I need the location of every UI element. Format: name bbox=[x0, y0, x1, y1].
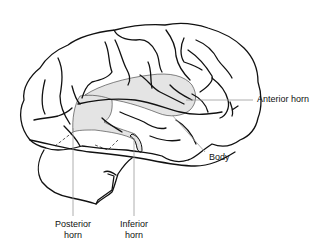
sulcus bbox=[230, 102, 238, 116]
sulcus bbox=[115, 40, 130, 85]
sulcus bbox=[166, 30, 190, 80]
sulcus bbox=[42, 80, 45, 114]
label-posterior-horn-line1: Posterior bbox=[55, 219, 91, 230]
cerebellum bbox=[38, 150, 132, 204]
sulcus bbox=[150, 136, 180, 141]
brainstem bbox=[96, 174, 114, 204]
temporal-lobe-edge bbox=[30, 140, 235, 166]
label-inferior-horn-line1: Inferior bbox=[120, 219, 148, 230]
brain-ventricle-diagram bbox=[0, 0, 326, 249]
label-posterior-horn-line2: horn bbox=[55, 230, 91, 241]
sulcus bbox=[120, 112, 166, 129]
label-inferior-horn-line2: horn bbox=[120, 230, 148, 241]
label-posterior-horn: Posterior horn bbox=[55, 219, 91, 241]
inferior-horn-tip bbox=[130, 134, 142, 152]
sulcus bbox=[181, 38, 202, 70]
cerebellum-outline bbox=[38, 150, 132, 204]
leader-body bbox=[172, 115, 205, 152]
sulcus bbox=[196, 40, 232, 78]
label-anterior-horn: Anterior horn bbox=[257, 94, 309, 105]
label-inferior-horn: Inferior horn bbox=[120, 219, 148, 241]
sulcus bbox=[114, 30, 162, 72]
label-body: Body bbox=[209, 152, 230, 163]
